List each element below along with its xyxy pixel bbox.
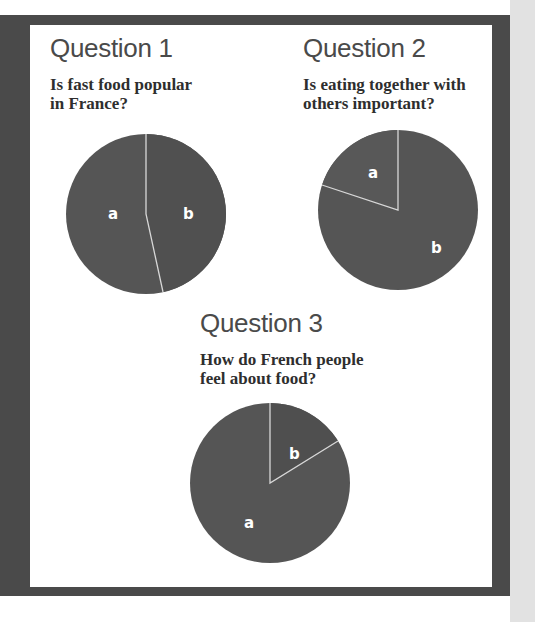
side-strip xyxy=(510,0,535,622)
pie-2-label-a: a xyxy=(368,164,378,182)
question-3-pie-chart: b a xyxy=(185,398,355,568)
pie-1-label-b: b xyxy=(183,205,194,223)
question-1-pie-chart: a b xyxy=(61,129,231,299)
question-1-title: Question 1 xyxy=(50,33,173,64)
pie-2-label-b: b xyxy=(431,239,442,257)
pie-3-label-a: a xyxy=(244,514,254,532)
question-2-title: Question 2 xyxy=(303,33,426,64)
question-2-text: Is eating together with others important… xyxy=(303,75,466,113)
question-1-text: Is fast food popular in France? xyxy=(50,75,192,113)
question-3-title: Question 3 xyxy=(200,308,323,339)
question-3-text: How do French people feel about food? xyxy=(200,350,364,388)
pie-3-label-b: b xyxy=(289,445,300,463)
pie-1-label-a: a xyxy=(108,205,118,223)
question-2-pie-chart: a b xyxy=(313,125,483,295)
